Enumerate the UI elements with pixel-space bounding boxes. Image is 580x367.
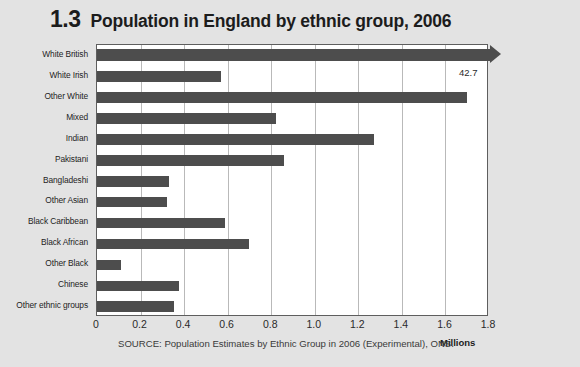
bar-row: [97, 296, 489, 317]
figure-heading: 1.3 Population in England by ethnic grou…: [50, 6, 451, 33]
bar: [97, 155, 284, 166]
bar-row: [97, 171, 489, 192]
category-label: Pakistani: [55, 154, 88, 164]
x-tick-label: 1.4: [394, 318, 409, 330]
x-tick-label: 1.0: [306, 318, 321, 330]
x-tick-label: 0.2: [132, 318, 147, 330]
bar-overflow-arrow-icon: [490, 45, 501, 63]
bar-row: [97, 254, 489, 275]
category-label: Other ethnic groups: [16, 300, 88, 310]
category-label: Black African: [41, 237, 88, 247]
bar-series: 42.7: [97, 45, 487, 315]
x-tick-label: 0.8: [263, 318, 278, 330]
category-label: Other Black: [45, 258, 88, 268]
figure-container: 1.3 Population in England by ethnic grou…: [0, 0, 580, 367]
category-axis-labels: White BritishWhite IrishOther WhiteMixed…: [0, 44, 92, 316]
bar: [97, 260, 121, 271]
plot-area: 42.7: [96, 44, 488, 316]
x-tick-label: 0.6: [219, 318, 234, 330]
source-note: SOURCE: Population Estimates by Ethnic G…: [118, 338, 454, 349]
plot-wrapper: 42.7: [96, 44, 488, 316]
bar-row: [97, 212, 489, 233]
x-axis-tick-labels: 00.20.40.60.81.01.21.41.61.8: [96, 318, 488, 334]
category-label: Other White: [44, 91, 88, 101]
bar-row: [97, 191, 489, 212]
bar: [97, 71, 221, 82]
category-label: White Irish: [50, 70, 88, 80]
bar: [97, 239, 249, 250]
category-label: Other Asian: [45, 195, 88, 205]
bar-row: [97, 87, 489, 108]
bar: [97, 176, 169, 187]
x-tick-label: 0.4: [176, 318, 191, 330]
bar-row: [97, 129, 489, 150]
bar: [97, 134, 374, 145]
bar: [97, 281, 179, 292]
bar: [97, 113, 276, 124]
bar-row: [97, 150, 489, 171]
bar-row: [97, 275, 489, 296]
figure-title: Population in England by ethnic group, 2…: [90, 11, 451, 32]
bar: [97, 218, 225, 229]
category-label: Mixed: [66, 112, 88, 122]
bar-row: [97, 108, 489, 129]
category-label: White British: [42, 49, 88, 59]
x-tick-label: 1.2: [350, 318, 365, 330]
figure-number: 1.3: [50, 6, 80, 33]
bar-row: [97, 66, 489, 87]
category-label: Indian: [66, 133, 88, 143]
bar: [97, 197, 167, 208]
bar-row: [97, 233, 489, 254]
category-label: Chinese: [58, 279, 88, 289]
category-label: Bangladeshi: [43, 175, 88, 185]
x-tick-label: 1.6: [437, 318, 452, 330]
bar: [97, 301, 174, 312]
x-tick-label: 0: [93, 318, 99, 330]
bar: [97, 49, 490, 61]
bar-row: 42.7: [97, 45, 489, 66]
x-tick-label: 1.8: [481, 318, 496, 330]
bar: [97, 92, 467, 103]
category-label: Black Caribbean: [28, 216, 88, 226]
